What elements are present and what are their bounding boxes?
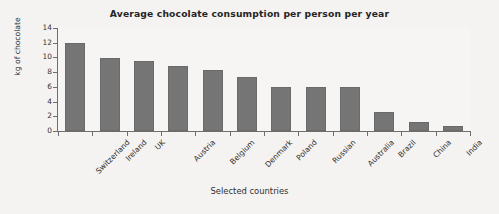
x-tick-label: China xyxy=(431,138,453,160)
x-tick-mark xyxy=(401,132,402,136)
bar xyxy=(340,87,360,131)
x-tick-mark xyxy=(367,132,368,136)
x-tick-label: India xyxy=(464,138,484,158)
y-tick-mark xyxy=(53,43,57,44)
y-tick-label: 12 xyxy=(34,39,52,47)
bar xyxy=(134,61,154,131)
x-tick-mark xyxy=(470,132,471,136)
y-tick-label-text: 6 xyxy=(34,83,52,90)
y-tick-mark xyxy=(53,116,57,117)
x-tick-mark xyxy=(127,132,128,136)
bar xyxy=(409,122,429,131)
x-tick-label: Belgium xyxy=(228,138,256,166)
chart-title: Average chocolate consumption per person… xyxy=(0,8,499,19)
y-tick-label-text: 14 xyxy=(34,24,52,31)
x-tick-label: Denmark xyxy=(263,138,294,169)
bar xyxy=(237,77,257,131)
bar xyxy=(374,112,394,131)
bar xyxy=(306,87,326,131)
y-tick-label-text: 10 xyxy=(34,53,52,60)
x-tick-mark xyxy=(264,132,265,136)
x-tick-mark xyxy=(195,132,196,136)
y-tick-label-text: 8 xyxy=(34,68,52,75)
y-tick-label: 10 xyxy=(34,53,52,61)
bar xyxy=(168,66,188,131)
bar xyxy=(443,126,463,131)
x-tick-mark xyxy=(161,132,162,136)
x-tick-mark xyxy=(230,132,231,136)
x-tick-label: Brazil xyxy=(396,138,417,159)
x-tick-label: Poland xyxy=(295,138,319,162)
x-tick-label: Austria xyxy=(192,138,217,163)
x-tick-label: UK xyxy=(153,138,167,152)
y-tick-label: 14 xyxy=(34,24,52,32)
bar xyxy=(100,58,120,131)
y-tick-label-text: 2 xyxy=(34,112,52,119)
x-tick-label: Russian xyxy=(330,138,357,165)
x-axis-title: Selected countries xyxy=(0,186,499,196)
y-tick-mark xyxy=(53,87,57,88)
bar xyxy=(203,70,223,131)
bar xyxy=(65,43,85,131)
y-tick-mark xyxy=(53,57,57,58)
y-tick-mark xyxy=(53,28,57,29)
y-tick-label-text: 0 xyxy=(34,127,52,134)
y-tick-mark xyxy=(53,102,57,103)
x-tick-mark xyxy=(298,132,299,136)
y-tick-label: 8 xyxy=(34,68,52,76)
y-tick-label: 2 xyxy=(34,112,52,120)
y-axis-line xyxy=(57,28,58,132)
bar-chart: Average chocolate consumption per person… xyxy=(0,0,499,214)
y-tick-label: 0 xyxy=(34,127,52,135)
x-tick-mark xyxy=(58,132,59,136)
x-tick-mark xyxy=(92,132,93,136)
y-tick-mark xyxy=(53,72,57,73)
bar xyxy=(271,87,291,131)
x-tick-mark xyxy=(436,132,437,136)
x-tick-mark xyxy=(333,132,334,136)
plot-area xyxy=(58,28,470,131)
x-tick-label: Australia xyxy=(366,138,396,168)
y-tick-label-text: 4 xyxy=(34,98,52,105)
y-tick-label: 6 xyxy=(34,83,52,91)
y-axis-title: kg of chocolate xyxy=(13,6,22,88)
y-tick-label-text: 12 xyxy=(34,39,52,46)
y-tick-mark xyxy=(53,131,57,132)
y-tick-label: 4 xyxy=(34,98,52,106)
